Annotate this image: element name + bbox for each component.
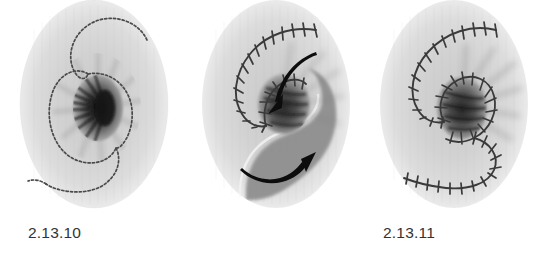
embryo-illustration-3 (366, 0, 544, 212)
figure-plate: 2.13.10 (0, 0, 544, 266)
embryo-illustration-2 (188, 0, 368, 212)
panel-caption-1: 2.13.10 (28, 224, 81, 242)
figure-panel-1: 2.13.10 (6, 0, 186, 215)
panel-caption-2: 2.13.11 (383, 224, 435, 242)
figure-panel-2: 2.13.11 (188, 0, 368, 215)
embryo-illustration-1 (6, 0, 186, 212)
figure-panel-3: 2.13.12 (366, 0, 544, 215)
